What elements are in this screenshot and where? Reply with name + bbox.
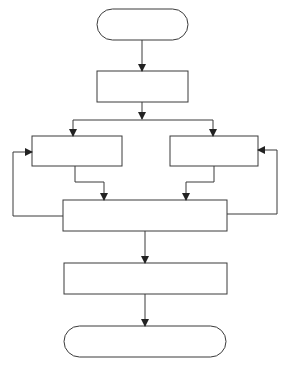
edge-right-to-merge bbox=[186, 166, 214, 200]
node-merge bbox=[63, 200, 227, 231]
step4-box bbox=[64, 263, 227, 294]
flowchart bbox=[0, 0, 288, 371]
end-terminator bbox=[64, 326, 226, 357]
node-step4 bbox=[64, 263, 227, 294]
node-end bbox=[64, 326, 226, 357]
node-start bbox=[97, 9, 188, 40]
start-terminator bbox=[97, 9, 188, 40]
node-step1 bbox=[97, 71, 188, 102]
branch-left-box bbox=[32, 136, 122, 166]
merge-box bbox=[63, 200, 227, 231]
node-branch-left bbox=[32, 136, 122, 166]
node-branch-right bbox=[170, 136, 258, 166]
step1-box bbox=[97, 71, 188, 102]
edge-left-to-merge bbox=[75, 166, 104, 200]
branch-right-box bbox=[170, 136, 258, 166]
